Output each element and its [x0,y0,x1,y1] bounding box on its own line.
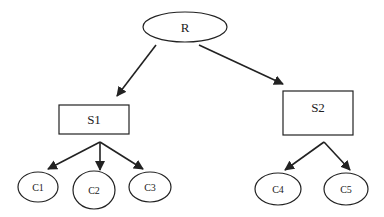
node-c4-label: C4 [272,184,284,195]
edge-r-s1 [117,45,156,96]
node-s1: S1 [59,105,129,134]
node-c3: C3 [129,172,171,202]
edge-s2-c4 [285,142,324,170]
node-c2: C2 [73,171,115,209]
node-c1: C1 [18,172,58,202]
node-c1-label: C1 [32,182,44,193]
edge-s1-c3 [100,142,143,169]
edge-s2-c5 [324,142,350,170]
edge-s1-c1 [48,142,100,169]
node-r: R [143,12,227,42]
node-r-label: R [181,20,190,35]
node-c5-label: C5 [340,184,352,195]
tree-diagram: R S1 S2 C1 C2 C3 C4 C5 [0,0,384,217]
node-s2-label: S2 [311,100,325,115]
node-s2: S2 [283,91,353,135]
node-c5: C5 [324,173,368,205]
node-s1-label: S1 [87,112,101,127]
node-c2-label: C2 [88,185,100,196]
node-c4: C4 [255,173,301,205]
node-c3-label: C3 [144,182,156,193]
edge-r-s2 [199,45,283,84]
